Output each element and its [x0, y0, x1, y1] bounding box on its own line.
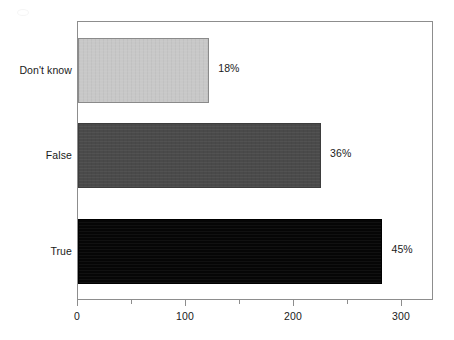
xtick-label-0: 0	[74, 310, 80, 322]
bar-false	[78, 123, 321, 188]
xtick-0	[77, 300, 78, 306]
xtick-50	[131, 300, 132, 304]
xtick-250	[347, 300, 348, 304]
xtick-label-300: 300	[392, 310, 410, 322]
xtick-150	[239, 300, 240, 304]
bar-dont-know	[78, 38, 209, 103]
bars-layer	[78, 22, 433, 300]
category-label-dont-know: Don't know	[0, 64, 72, 76]
xtick-300	[401, 300, 402, 306]
value-label-dont-know: 18%	[218, 62, 239, 74]
xtick-200	[293, 300, 294, 306]
value-label-false: 36%	[330, 147, 351, 159]
xtick-100	[185, 300, 186, 306]
xtick-label-200: 200	[284, 310, 302, 322]
value-label-true: 45%	[391, 243, 412, 255]
category-label-true: True	[0, 245, 72, 257]
bar-true	[78, 219, 382, 284]
bar-chart: Don't know False True 18% 36% 45% 0 100 …	[0, 0, 454, 340]
category-label-false: False	[0, 149, 72, 161]
xtick-label-100: 100	[176, 310, 194, 322]
category-axis: Don't know False True	[0, 0, 72, 340]
